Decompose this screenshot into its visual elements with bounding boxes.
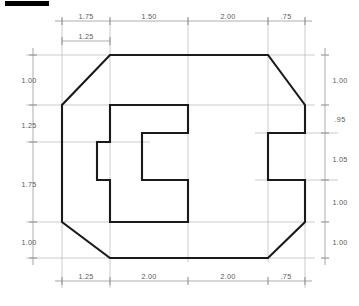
dim-right-2-label: .95 [335,115,346,124]
dim-top-1-label: 1.75 [78,12,93,21]
dim-bottom-4-label: .75 [281,272,292,281]
part-geometry [62,55,305,258]
dim-right-4-label: 1.00 [332,198,347,207]
dim-left-4-label: 1.00 [21,238,36,247]
dim-top-4-label: .75 [281,12,292,21]
dim-left-1-label: 1.00 [21,76,36,85]
dim-left-2-label: 1.25 [21,121,36,130]
dim-bottom-3-label: 2.00 [220,272,235,281]
plate-outline [62,55,305,258]
dim-top-2-label: 1.50 [141,12,156,21]
dim-top-secondary-label: 1.25 [78,32,93,41]
top-left-black-bar [5,1,49,6]
internal-notch [97,105,188,222]
dim-right-3-label: 1.05 [332,155,347,164]
engineering-drawing: 1.75 1.50 2.00 .75 1.25 [0,0,359,306]
right-dimension-chain [321,48,329,265]
extension-lines [26,18,338,288]
dim-bottom-1-label: 1.25 [78,272,93,281]
dim-top-3-label: 2.00 [220,12,235,21]
drawing-canvas: 1.75 1.50 2.00 .75 1.25 [0,0,359,306]
dim-right-1-label: 1.00 [332,76,347,85]
dim-left-3-label: 1.75 [21,180,36,189]
dim-bottom-2-label: 2.00 [141,272,156,281]
dim-right-5-label: 1.00 [332,238,347,247]
